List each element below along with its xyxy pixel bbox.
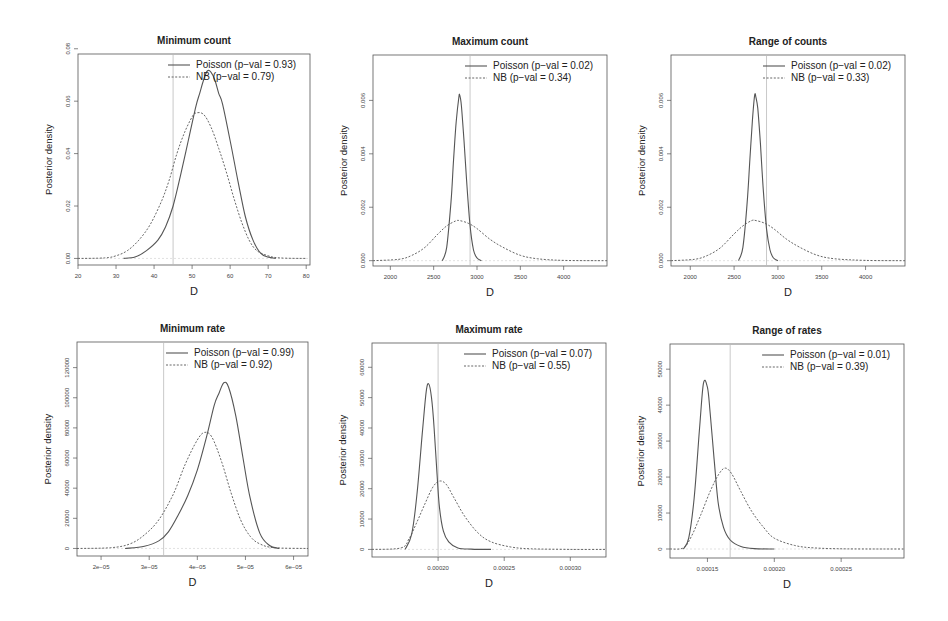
legend-poisson: Poisson (p−val = 0.01) <box>790 349 890 360</box>
y-axis-label: Posterior density <box>636 125 647 196</box>
y-tick-label: 0.04 <box>65 147 71 159</box>
x-axis-label: D <box>784 286 792 298</box>
chart-title: Range of counts <box>749 36 828 47</box>
y-tick-label: 20000 <box>657 468 663 485</box>
x-tick-label: 40 <box>151 273 158 279</box>
x-tick-label: 0.00020 <box>763 566 785 572</box>
figure-canvas: 203040506070800.000.020.040.060.08Minimu… <box>0 0 948 621</box>
x-axis-label: D <box>485 577 493 589</box>
y-tick-label: 0.006 <box>658 92 664 108</box>
x-tick-label: 5e−05 <box>237 564 255 570</box>
y-tick-label: 0.00 <box>65 252 71 264</box>
x-tick-label: 4000 <box>859 274 873 280</box>
x-tick-label: 70 <box>265 273 272 279</box>
x-tick-label: 3500 <box>514 274 528 280</box>
y-tick-label: 100000 <box>64 387 70 408</box>
y-tick-label: 0.004 <box>360 146 366 162</box>
x-tick-label: 60 <box>227 273 234 279</box>
y-tick-label: 0.000 <box>658 252 664 268</box>
x-tick-label: 2000 <box>684 274 698 280</box>
x-tick-label: 2500 <box>727 274 741 280</box>
y-tick-label: 40000 <box>64 479 70 496</box>
y-axis-label: Posterior density <box>43 124 54 195</box>
y-tick-label: 0.004 <box>658 146 664 162</box>
x-tick-label: 30 <box>113 273 120 279</box>
x-tick-label: 3000 <box>470 274 484 280</box>
x-tick-label: 0.00020 <box>427 565 449 571</box>
y-axis-label: Posterior density <box>635 415 646 486</box>
y-tick-label: 20000 <box>64 509 70 526</box>
x-axis-label: D <box>486 286 494 298</box>
legend-nb: NB (p−val = 0.79) <box>196 71 274 82</box>
legend-poisson: Poisson (p−val = 0.99) <box>194 347 294 358</box>
y-tick-label: 40000 <box>359 419 365 436</box>
x-axis-label: D <box>783 578 791 590</box>
chart-title: Maximum rate <box>455 324 523 335</box>
x-tick-label: 2000 <box>384 274 398 280</box>
legend-poisson: Poisson (p−val = 0.93) <box>196 59 296 70</box>
y-tick-label: 0.02 <box>65 200 71 212</box>
legend-nb: NB (p−val = 0.34) <box>493 72 571 83</box>
y-tick-label: 10000 <box>657 504 663 521</box>
x-tick-label: 3000 <box>771 274 785 280</box>
legend-nb: NB (p−val = 0.39) <box>790 361 868 372</box>
x-tick-label: 4e−05 <box>189 564 207 570</box>
chart-title: Minimum rate <box>160 323 225 334</box>
y-tick-label: 0.08 <box>65 42 71 54</box>
y-tick-label: 60000 <box>359 358 365 375</box>
chart-title: Maximum count <box>452 36 529 47</box>
y-tick-label: 50000 <box>359 389 365 406</box>
y-axis-label: Posterior density <box>337 414 348 485</box>
y-tick-label: 0.006 <box>360 92 366 108</box>
x-axis-label: D <box>190 285 198 297</box>
y-tick-label: 0.06 <box>65 95 71 107</box>
y-axis-label: Posterior density <box>42 413 53 484</box>
y-tick-label: 20000 <box>359 480 365 497</box>
x-tick-label: 2500 <box>427 274 441 280</box>
y-tick-label: 0.002 <box>658 199 664 215</box>
y-tick-label: 50000 <box>657 360 663 377</box>
y-tick-label: 80000 <box>64 419 70 436</box>
x-tick-label: 3e−05 <box>141 564 159 570</box>
x-tick-label: 6e−05 <box>285 564 303 570</box>
x-axis-label: D <box>189 576 197 588</box>
y-tick-label: 60000 <box>64 449 70 466</box>
x-tick-label: 20 <box>75 273 82 279</box>
legend-poisson: Poisson (p−val = 0.02) <box>493 60 593 71</box>
x-tick-label: 3500 <box>815 274 829 280</box>
x-tick-label: 0.00030 <box>559 565 581 571</box>
legend-nb: NB (p−val = 0.33) <box>791 72 869 83</box>
x-tick-label: 0.00015 <box>697 566 719 572</box>
x-tick-label: 50 <box>189 273 196 279</box>
x-tick-label: 0.00025 <box>493 565 515 571</box>
legend-poisson: Poisson (p−val = 0.07) <box>492 348 592 359</box>
y-tick-label: 0.000 <box>360 252 366 268</box>
x-tick-label: 4000 <box>557 274 571 280</box>
y-tick-label: 40000 <box>657 396 663 413</box>
y-tick-label: 120000 <box>64 357 70 378</box>
y-axis-label: Posterior density <box>338 125 349 196</box>
x-tick-label: 80 <box>303 273 310 279</box>
x-tick-label: 2e−05 <box>93 564 111 570</box>
y-tick-label: 10000 <box>359 510 365 527</box>
chart-title: Minimum count <box>157 35 232 46</box>
chart-title: Range of rates <box>752 325 822 336</box>
y-tick-label: 0.002 <box>360 199 366 215</box>
legend-poisson: Poisson (p−val = 0.02) <box>791 60 891 71</box>
x-tick-label: 0.00025 <box>830 566 852 572</box>
y-tick-label: 30000 <box>359 449 365 466</box>
y-tick-label: 30000 <box>657 432 663 449</box>
legend-nb: NB (p−val = 0.92) <box>194 359 272 370</box>
legend-nb: NB (p−val = 0.55) <box>492 360 570 371</box>
